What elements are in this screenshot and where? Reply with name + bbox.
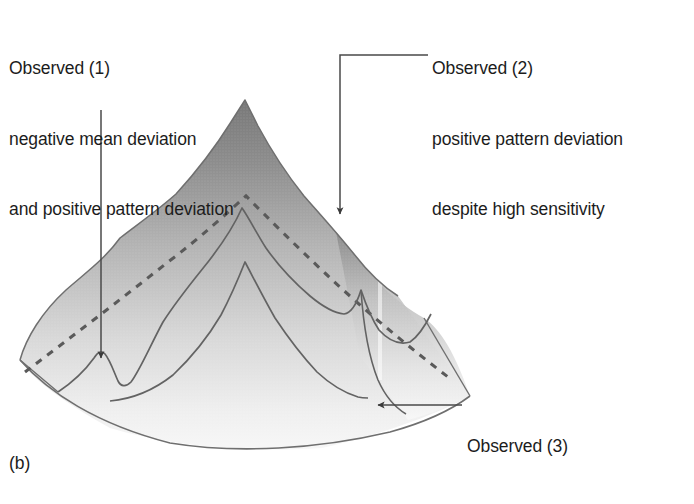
annotation-observed-3-line-1: Observed (3) <box>467 435 641 459</box>
arrow-observed-2 <box>340 55 428 214</box>
figure-label: (b) <box>9 453 30 473</box>
figure-root: Observed (1) negative mean deviation and… <box>0 0 694 504</box>
annotation-observed-1-line-3: and positive pattern deviation <box>9 198 234 222</box>
annotation-observed-1: Observed (1) negative mean deviation and… <box>9 10 234 269</box>
annotation-observed-2: Observed (2) positive pattern deviation … <box>432 10 623 269</box>
annotation-observed-2-line-1: Observed (2) <box>432 57 623 81</box>
annotation-observed-2-line-2: positive pattern deviation <box>432 128 623 152</box>
annotation-observed-1-line-2: negative mean deviation <box>9 128 234 152</box>
annotation-observed-3: Observed (3) zero pattern deviation desp… <box>467 388 641 504</box>
annotation-observed-1-line-1: Observed (1) <box>9 57 234 81</box>
annotation-observed-2-line-3: despite high sensitivity <box>432 198 623 222</box>
surface-seam-highlight <box>378 250 382 380</box>
